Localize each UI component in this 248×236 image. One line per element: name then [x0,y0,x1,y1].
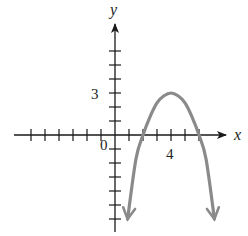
parabola-graph: y x 0 4 3 [0,0,248,236]
x-axis-label: x [233,126,241,143]
origin-label: 0 [100,137,108,153]
y-axis-label: y [108,1,118,19]
y-tick-label-3: 3 [91,86,99,102]
x-tick-label-4: 4 [166,146,174,162]
curve-arrowheads [123,207,219,219]
